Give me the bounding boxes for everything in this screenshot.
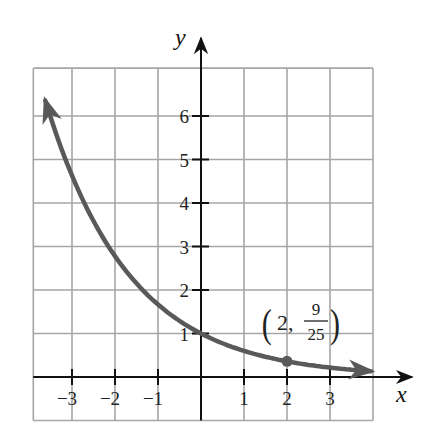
fraction-denominator: 25 [308, 325, 325, 344]
y-tick-label: 5 [180, 150, 190, 171]
y-axis-label: y [173, 24, 186, 50]
y-tick-label: 3 [180, 237, 190, 258]
paren-close: ) [330, 301, 340, 346]
graph: −3−2−1123123456 (2,925) x y [0, 0, 442, 447]
point-marker [282, 356, 293, 367]
x-tick-label: 3 [325, 388, 335, 409]
x-tick-label: 1 [239, 388, 249, 409]
y-tick-label: 2 [180, 280, 190, 301]
x-tick-label: 2 [282, 388, 292, 409]
point-x-label: 2, [277, 310, 294, 335]
x-axis-label: x [395, 381, 407, 407]
y-tick-label: 6 [180, 106, 190, 127]
axes [33, 38, 412, 421]
fraction-numerator: 9 [312, 300, 321, 319]
paren-open: ( [262, 301, 272, 346]
x-tick-label: −1 [143, 388, 163, 409]
x-tick-label: −3 [57, 388, 77, 409]
y-tick-label: 4 [180, 193, 190, 214]
x-tick-label: −2 [100, 388, 120, 409]
